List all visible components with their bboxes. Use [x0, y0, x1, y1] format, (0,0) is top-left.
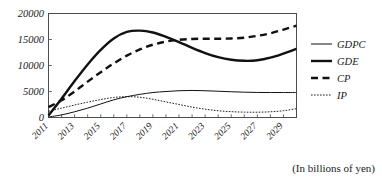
series-line-ip — [49, 97, 297, 113]
unit-caption: (In billions of yen) — [292, 162, 375, 175]
x-tick-label: 2015 — [82, 121, 103, 142]
x-tick-label: 2025 — [212, 121, 233, 142]
x-tick-label: 2021 — [160, 121, 181, 142]
legend-label-cp: CP — [337, 73, 351, 84]
x-axis-labels: 2011201320152017201920212023202520272029 — [30, 120, 285, 141]
y-tick-label: 5000 — [23, 86, 45, 97]
chart-figure: 20000150001000050000 2011201320152017201… — [0, 0, 382, 182]
chart-legend: GDPCGDECPIP — [311, 39, 367, 101]
series-line-gde — [49, 31, 297, 116]
x-tick-label: 2013 — [56, 121, 77, 142]
y-tick-label: 20000 — [18, 8, 45, 19]
x-tick-label: 2023 — [186, 121, 207, 142]
legend-label-gdpc: GDPC — [337, 39, 367, 50]
x-tick-label: 2019 — [134, 121, 155, 142]
series-line-gdpc — [49, 90, 297, 117]
x-tick-label: 2017 — [108, 120, 129, 141]
x-tick-label: 2027 — [238, 120, 259, 141]
x-tick-label: 2011 — [30, 121, 50, 141]
y-tick-label: 15000 — [18, 34, 45, 45]
y-tick-label: 10000 — [18, 60, 45, 71]
x-axis-tick-marks — [49, 114, 297, 117]
line-chart: 20000150001000050000 2011201320152017201… — [0, 0, 382, 182]
data-series-group — [49, 26, 297, 117]
legend-label-gde: GDE — [337, 56, 359, 67]
x-tick-label: 2029 — [264, 121, 285, 142]
legend-label-ip: IP — [336, 90, 347, 101]
y-axis-ticks: 20000150001000050000 — [18, 8, 52, 123]
